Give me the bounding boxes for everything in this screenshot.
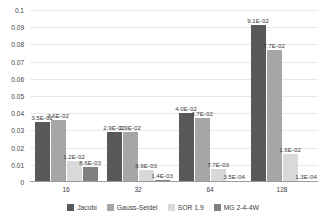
bar[interactable]: 9.1E-02 xyxy=(251,25,266,182)
bar[interactable]: 2.9E-02 xyxy=(123,132,138,182)
bar-group: 3.5E-023.6E-021.2E-028.6E-03 xyxy=(30,10,102,182)
bar-group: 4.0E-023.7E-027.7E-033.5E-04 xyxy=(174,10,246,182)
y-axis-tick: 0.1 xyxy=(15,7,24,14)
bar[interactable]: 2.9E-02 xyxy=(107,132,122,182)
bar-slot: 1.3E-04 xyxy=(299,10,314,182)
legend-item[interactable]: Jacobi xyxy=(67,203,97,212)
y-axis-tick: 0.02 xyxy=(11,144,24,151)
bar-slot: 3.7E-02 xyxy=(195,10,210,182)
bar-slot: 3.5E-02 xyxy=(35,10,50,182)
bar-slot: 8.6E-03 xyxy=(83,10,98,182)
bar-value-label: 8.6E-03 xyxy=(79,159,101,166)
bar-group: 2.9E-022.9E-026.9E-031.4E-03 xyxy=(102,10,174,182)
bar-slot: 1.6E-02 xyxy=(283,10,298,182)
plot-area: 3.5E-023.6E-021.2E-028.6E-032.9E-022.9E-… xyxy=(30,10,318,182)
legend-item[interactable]: SOR 1.9 xyxy=(168,203,204,212)
x-axis-tick: 32 xyxy=(102,184,174,196)
y-axis-tick: 0.07 xyxy=(11,58,24,65)
y-axis-tick: 0.06 xyxy=(11,75,24,82)
x-axis-tick: 128 xyxy=(246,184,318,196)
legend-label: Jacobi xyxy=(77,203,97,212)
y-axis-tick: 0.08 xyxy=(11,41,24,48)
y-axis-tick: 0.01 xyxy=(11,161,24,168)
bar-slot: 1.4E-03 xyxy=(155,10,170,182)
bar-chart: 00.010.020.030.040.050.060.070.080.090.1… xyxy=(0,0,326,221)
x-axis-tick: 16 xyxy=(30,184,102,196)
y-axis-tick: 0.05 xyxy=(11,93,24,100)
x-axis-labels: 163264128 xyxy=(30,184,318,196)
legend-swatch-icon xyxy=(107,204,114,211)
y-axis-tick: 0.09 xyxy=(11,24,24,31)
y-axis-tick: 0 xyxy=(20,179,24,186)
x-axis-tick: 64 xyxy=(174,184,246,196)
bar[interactable]: 4.0E-02 xyxy=(179,113,194,182)
legend-swatch-icon xyxy=(214,204,221,211)
legend-swatch-icon xyxy=(168,204,175,211)
bar[interactable]: 3.5E-02 xyxy=(35,122,50,182)
y-axis-labels: 00.010.020.030.040.050.060.070.080.090.1 xyxy=(0,10,27,182)
bar-slot: 7.7E-02 xyxy=(267,10,282,182)
bar-slot: 1.2E-02 xyxy=(67,10,82,182)
bar[interactable]: 3.7E-02 xyxy=(195,118,210,182)
legend-swatch-icon xyxy=(67,204,74,211)
y-axis-tick: 0.04 xyxy=(11,110,24,117)
bar-value-label: 3.5E-04 xyxy=(223,173,245,180)
y-axis-tick: 0.03 xyxy=(11,127,24,134)
bar-group: 9.1E-027.7E-021.6E-021.3E-04 xyxy=(246,10,318,182)
bar-slot: 9.1E-02 xyxy=(251,10,266,182)
bar-slot: 2.9E-02 xyxy=(123,10,138,182)
legend-label: SOR 1.9 xyxy=(178,203,204,212)
bar-slot: 3.5E-04 xyxy=(227,10,242,182)
bar-groups: 3.5E-023.6E-021.2E-028.6E-032.9E-022.9E-… xyxy=(30,10,318,182)
chart-legend: JacobiGauss-SeidelSOR 1.9MG 2-4-4W xyxy=(0,200,326,214)
bar-value-label: 1.3E-04 xyxy=(295,173,317,180)
x-axis-line xyxy=(30,181,318,182)
legend-item[interactable]: Gauss-Seidel xyxy=(107,203,158,212)
bar[interactable]: 8.6E-03 xyxy=(83,167,98,182)
bar-slot: 4.0E-02 xyxy=(179,10,194,182)
bar-slot: 7.7E-03 xyxy=(211,10,226,182)
bar-slot: 2.9E-02 xyxy=(107,10,122,182)
bar-value-label: 1.4E-03 xyxy=(151,172,173,179)
bar[interactable]: 7.7E-02 xyxy=(267,50,282,182)
bar-slot: 6.9E-03 xyxy=(139,10,154,182)
legend-label: MG 2-4-4W xyxy=(224,203,259,212)
legend-label: Gauss-Seidel xyxy=(117,203,158,212)
legend-item[interactable]: MG 2-4-4W xyxy=(214,203,259,212)
bar[interactable]: 3.6E-02 xyxy=(51,120,66,182)
